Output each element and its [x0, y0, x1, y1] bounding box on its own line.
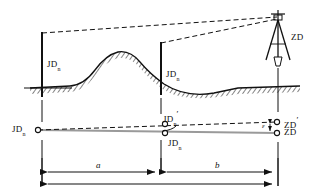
- label-jd-mid-plan: JDn: [168, 139, 182, 150]
- plan-baseline: [38, 130, 277, 133]
- dimension-b-label: b: [215, 161, 220, 170]
- label-jd-middle-profile: JDn: [166, 70, 180, 81]
- dimension-lines: [42, 158, 278, 186]
- tripod-station: [266, 10, 290, 66]
- terrain-profile: [30, 52, 300, 98]
- profile-section: [24, 10, 300, 98]
- label-jd-prime: JDn′: [163, 111, 179, 126]
- label-zd-station: ZD: [291, 33, 303, 42]
- plan-dashed-line: [38, 122, 277, 130]
- label-jd-left-profile: JDn: [47, 60, 61, 71]
- node-zd-prime: [274, 119, 279, 124]
- diagram-canvas: [0, 0, 316, 193]
- label-epsilon-offset: ε: [262, 123, 265, 130]
- label-zd-plan: ZD: [284, 128, 296, 137]
- figure-root: JDn JDn ZD JDn JDn′ JDn ZD′ ZD ε a b: [0, 0, 316, 193]
- node-zd: [274, 130, 279, 135]
- sight-lines: [42, 17, 277, 43]
- node-jd-left: [35, 127, 40, 132]
- label-jd-left-plan: JDn: [12, 125, 26, 136]
- dimension-a-label: a: [96, 161, 101, 170]
